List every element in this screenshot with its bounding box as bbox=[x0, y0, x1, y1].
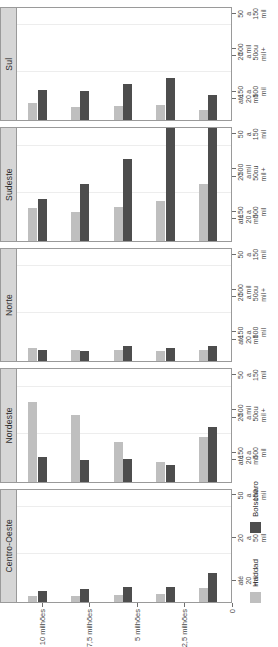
legend-label: Bolsonaro bbox=[251, 481, 260, 517]
bar-haddad bbox=[71, 415, 80, 482]
y-axis-tick bbox=[184, 603, 185, 607]
x-axis-tick-label: 20a50mil bbox=[237, 293, 267, 302]
facet-norte: Norte bbox=[0, 248, 232, 362]
bar-bolsonaro bbox=[166, 348, 175, 361]
x-axis-tick bbox=[232, 176, 236, 177]
legend-color-key bbox=[250, 592, 261, 603]
x-axis-tick bbox=[232, 495, 236, 496]
facet-title-strip: Nordeste bbox=[0, 368, 17, 482]
gridline bbox=[17, 71, 231, 72]
facet-title: Sul bbox=[4, 58, 14, 71]
bar-haddad bbox=[28, 596, 37, 602]
bar-bolsonaro bbox=[123, 459, 132, 482]
facet-title: Nordeste bbox=[4, 407, 14, 443]
chart-legend: HaddadBolsonaro bbox=[250, 481, 261, 603]
bar-haddad bbox=[156, 105, 165, 120]
bar-haddad bbox=[199, 437, 208, 482]
facet-sudeste: Sudeste bbox=[0, 127, 232, 241]
gridline bbox=[17, 145, 231, 146]
bar-haddad bbox=[114, 350, 123, 361]
y-axis-tick bbox=[232, 603, 233, 607]
x-axis-tick bbox=[232, 133, 236, 134]
y-axis-tick bbox=[42, 603, 43, 607]
bar-bolsonaro bbox=[208, 346, 217, 361]
facet-plot-area bbox=[17, 127, 232, 241]
y-axis-tick bbox=[89, 603, 90, 607]
facet-title: Norte bbox=[4, 294, 14, 316]
facet-centro-oeste: Centro-Oeste bbox=[0, 489, 232, 603]
bar-bolsonaro bbox=[80, 91, 89, 120]
x-axis-tick-label: até20mil bbox=[237, 455, 260, 465]
bar-haddad bbox=[156, 462, 165, 482]
x-axis-tick-label: 20a50mil bbox=[237, 172, 267, 181]
facet-title: Sudeste bbox=[4, 168, 14, 201]
bar-haddad bbox=[114, 442, 123, 482]
bar-bolsonaro bbox=[38, 591, 47, 602]
facet-title: Centro-Oeste bbox=[4, 519, 14, 572]
facet-title-strip: Centro-Oeste bbox=[0, 489, 17, 603]
y-axis-tick-label: 10 milhões bbox=[38, 609, 47, 645]
bar-haddad bbox=[71, 107, 80, 120]
bar-bolsonaro bbox=[123, 346, 132, 361]
bar-haddad bbox=[156, 351, 165, 361]
y-axis-tick-label: 5 milhões bbox=[133, 609, 142, 641]
legend-label: Haddad bbox=[251, 559, 260, 587]
bar-haddad bbox=[28, 402, 37, 482]
x-axis-tick-label: 50a150mil bbox=[237, 8, 267, 20]
gridline bbox=[17, 386, 231, 387]
x-axis-tick bbox=[232, 98, 236, 99]
bar-haddad bbox=[28, 348, 37, 361]
x-axis-tick-label: até20mil bbox=[237, 335, 260, 345]
bar-haddad bbox=[71, 212, 80, 241]
x-axis-tick bbox=[232, 219, 236, 220]
x-axis-tick-label: 50a150mil bbox=[237, 128, 267, 140]
bar-haddad bbox=[199, 350, 208, 361]
gridline bbox=[17, 312, 231, 313]
x-axis-tick bbox=[232, 289, 236, 290]
bar-haddad bbox=[114, 595, 123, 602]
gridline bbox=[17, 24, 231, 25]
y-axis-tick-label: 0 bbox=[228, 609, 237, 613]
x-axis-tick bbox=[232, 254, 236, 255]
bar-bolsonaro bbox=[80, 351, 89, 361]
bar-bolsonaro bbox=[80, 460, 89, 482]
x-axis-tick bbox=[232, 452, 236, 453]
facet-title-strip: Sul bbox=[0, 7, 17, 121]
bar-bolsonaro bbox=[123, 159, 132, 241]
x-axis-tick bbox=[232, 339, 236, 340]
bar-haddad bbox=[71, 596, 80, 602]
bar-bolsonaro bbox=[166, 127, 175, 240]
bar-haddad bbox=[114, 106, 123, 120]
bar-bolsonaro bbox=[166, 587, 175, 602]
x-axis-tick-label: 50a150mil bbox=[237, 249, 267, 261]
x-axis-tick bbox=[232, 211, 236, 212]
y-axis-labels: 02,5 milhões5 milhões7,5 milhões10 milhõ… bbox=[0, 609, 232, 643]
x-axis-tick bbox=[232, 332, 236, 333]
bar-haddad bbox=[28, 208, 37, 241]
x-axis-tick bbox=[232, 296, 236, 297]
facet-plot-area bbox=[17, 368, 232, 482]
bar-bolsonaro bbox=[38, 90, 47, 120]
facet-title-strip: Norte bbox=[0, 248, 17, 362]
bar-haddad bbox=[156, 201, 165, 241]
bar-haddad bbox=[156, 594, 165, 602]
bar-haddad bbox=[114, 207, 123, 241]
bar-bolsonaro bbox=[38, 457, 47, 482]
legend-color-key bbox=[250, 522, 261, 533]
bar-bolsonaro bbox=[208, 95, 217, 120]
x-axis-tick bbox=[232, 537, 236, 538]
bar-bolsonaro bbox=[208, 427, 217, 482]
bar-bolsonaro bbox=[123, 84, 132, 120]
x-axis-tick bbox=[232, 48, 236, 49]
bar-haddad bbox=[28, 103, 37, 120]
facet-nordeste: Nordeste bbox=[0, 368, 232, 482]
bar-bolsonaro bbox=[38, 199, 47, 241]
facet-plot-area bbox=[17, 7, 232, 121]
x-axis-tick bbox=[232, 459, 236, 460]
bar-haddad bbox=[199, 110, 208, 120]
x-axis-tick-label: até20mil bbox=[237, 215, 260, 225]
bar-bolsonaro bbox=[80, 184, 89, 241]
y-axis-tick-label: 7,5 milhões bbox=[85, 609, 94, 647]
